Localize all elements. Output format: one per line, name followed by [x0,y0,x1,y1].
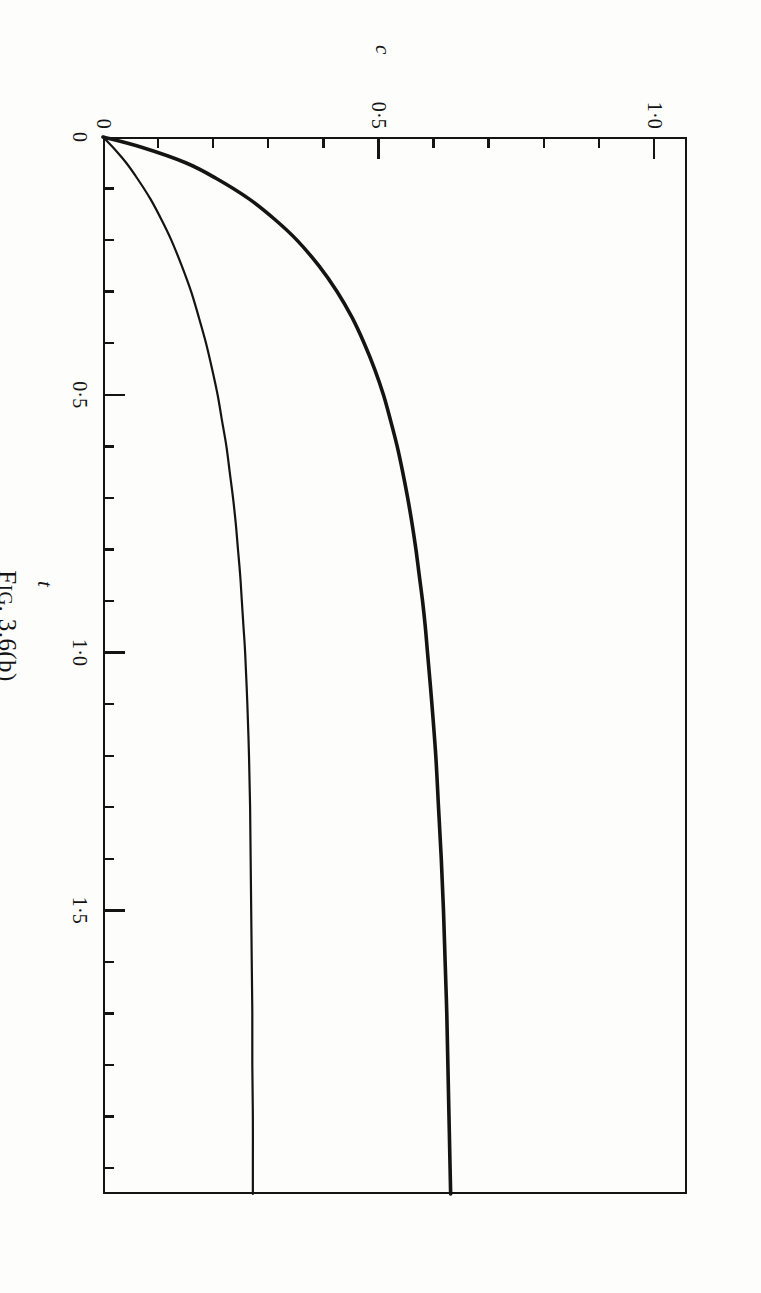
curve-lower [103,137,253,1194]
figure-caption: FIG. 3.6(b) [0,570,21,681]
curves-plot-area [103,137,687,1194]
x-tick-label: 1·5 [68,896,91,923]
curve-upper [103,137,451,1194]
figure-3-6b: 00·51·01·500·51·0 t c FIG. 3.6(b) [51,52,711,1242]
x-tick-label: 0·5 [68,381,91,408]
scanned-page: 00·51·01·500·51·0 t c FIG. 3.6(b) [0,0,761,1293]
y-tick-label: 0 [91,73,114,129]
caption-prefix: F [0,570,21,584]
y-tick-label: 0·5 [366,73,389,129]
x-axis-title: t [32,580,57,586]
x-tick-label: 0 [68,131,91,141]
caption-rest: . 3.6(b) [0,605,21,681]
caption-smallcaps: IG [0,584,16,605]
x-tick-label: 1·0 [68,638,91,665]
y-axis-title: c [370,45,395,54]
rotated-figure-wrapper: 00·51·01·500·51·0 t c FIG. 3.6(b) [51,52,711,1242]
y-tick-label: 1·0 [642,73,665,129]
